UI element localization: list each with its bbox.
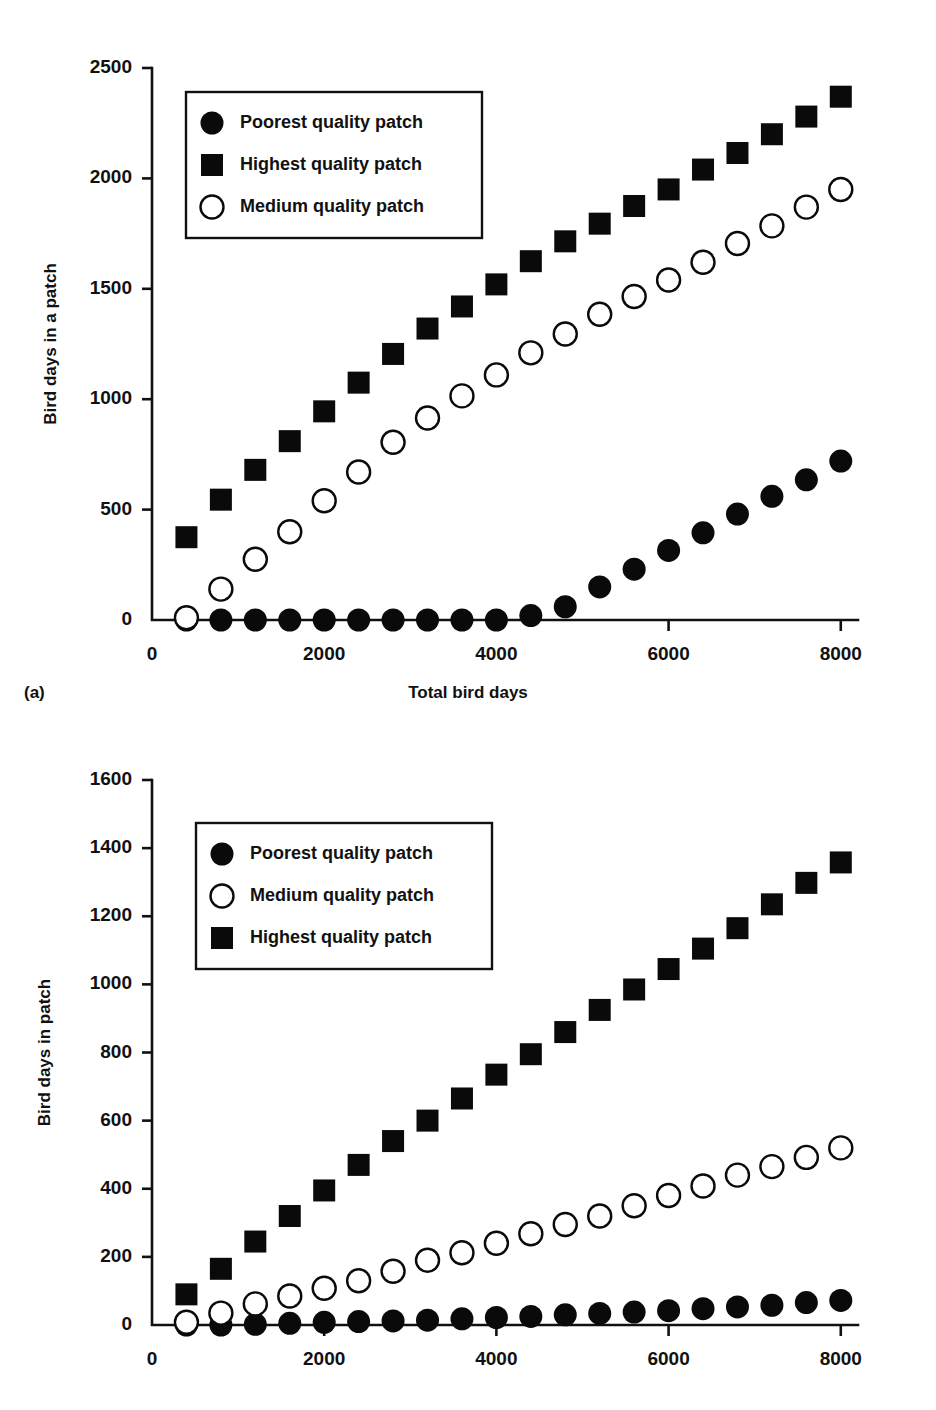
data-point xyxy=(589,999,611,1021)
data-point xyxy=(795,1291,818,1314)
legend-marker xyxy=(211,843,234,866)
data-point xyxy=(761,123,783,145)
x-tick-label: 2000 xyxy=(303,1348,345,1369)
x-tick-label: 6000 xyxy=(647,1348,689,1369)
x-tick-label: 8000 xyxy=(820,1348,862,1369)
x-tick-label: 2000 xyxy=(303,643,345,664)
data-point xyxy=(382,609,405,632)
data-point xyxy=(450,609,473,632)
data-point xyxy=(692,159,714,181)
data-point xyxy=(313,609,336,632)
data-point xyxy=(519,1222,542,1245)
x-tick-label: 8000 xyxy=(820,643,862,664)
legend-marker xyxy=(201,196,224,219)
data-point xyxy=(485,363,508,386)
data-point xyxy=(760,1294,783,1317)
figure-page: 0500100015002000250002000400060008000Bir… xyxy=(0,0,936,1410)
data-point xyxy=(657,539,680,562)
panel-label-a: (a) xyxy=(24,683,45,702)
data-point xyxy=(209,1302,232,1325)
data-point xyxy=(348,372,370,394)
y-axis-title-group: Bird days in patch xyxy=(35,979,54,1126)
y-tick-label: 200 xyxy=(100,1245,132,1266)
data-point xyxy=(451,1087,473,1109)
legend-label: Poorest quality patch xyxy=(240,112,423,132)
data-point xyxy=(382,343,404,365)
data-point xyxy=(657,268,680,291)
data-point xyxy=(692,1297,715,1320)
data-point xyxy=(692,1175,715,1198)
data-point xyxy=(657,1184,680,1207)
data-point xyxy=(416,406,439,429)
x-axis-title: Total bird days xyxy=(408,683,528,702)
data-point xyxy=(623,285,646,308)
data-point xyxy=(382,431,405,454)
x-tick-label: 0 xyxy=(147,1348,158,1369)
data-point xyxy=(279,1205,301,1227)
data-point xyxy=(416,1309,439,1332)
y-tick-label: 1000 xyxy=(90,387,132,408)
y-tick-label: 2000 xyxy=(90,166,132,187)
y-tick-label: 1500 xyxy=(90,277,132,298)
data-point xyxy=(450,1241,473,1264)
data-point xyxy=(244,459,266,481)
legend-label: Highest quality patch xyxy=(240,154,422,174)
data-point xyxy=(244,1292,267,1315)
data-point xyxy=(830,86,852,108)
data-point xyxy=(347,1310,370,1333)
data-point xyxy=(175,526,197,548)
data-point xyxy=(485,1064,507,1086)
data-point xyxy=(588,575,611,598)
data-point xyxy=(692,938,714,960)
y-tick-label: 600 xyxy=(100,1109,132,1130)
data-point xyxy=(795,1146,818,1169)
data-point xyxy=(417,318,439,340)
data-point xyxy=(278,1285,301,1308)
data-point xyxy=(657,1299,680,1322)
data-point xyxy=(175,1311,198,1334)
legend-label: Medium quality patch xyxy=(240,196,424,216)
legend-marker xyxy=(211,885,234,908)
data-point xyxy=(692,251,715,274)
data-point xyxy=(554,1303,577,1326)
y-tick-label: 0 xyxy=(121,608,132,629)
data-point xyxy=(382,1309,405,1332)
x-tick-label: 4000 xyxy=(475,643,517,664)
data-point xyxy=(279,430,301,452)
data-point xyxy=(278,609,301,632)
data-point xyxy=(313,489,336,512)
data-point xyxy=(588,303,611,326)
data-point xyxy=(726,142,748,164)
data-point xyxy=(554,230,576,252)
data-point xyxy=(175,1283,197,1305)
data-point xyxy=(692,521,715,544)
data-point xyxy=(726,1295,749,1318)
data-point xyxy=(658,178,680,200)
data-point xyxy=(347,1269,370,1292)
scatter-plot-a: 0500100015002000250002000400060008000Bir… xyxy=(0,0,936,705)
data-point xyxy=(658,958,680,980)
chart-panel-a: 0500100015002000250002000400060008000Bir… xyxy=(0,0,936,705)
y-tick-label: 500 xyxy=(100,498,132,519)
data-point xyxy=(795,872,817,894)
data-point xyxy=(450,384,473,407)
data-point xyxy=(623,195,645,217)
data-point xyxy=(554,1021,576,1043)
data-point xyxy=(829,450,852,473)
data-point xyxy=(519,341,542,364)
data-point xyxy=(244,548,267,571)
data-point xyxy=(485,273,507,295)
data-point xyxy=(278,1312,301,1335)
data-point xyxy=(209,578,232,601)
data-point xyxy=(623,1194,646,1217)
data-point xyxy=(760,1155,783,1178)
data-point xyxy=(313,1311,336,1334)
data-point xyxy=(726,1164,749,1187)
data-point xyxy=(209,609,232,632)
data-point xyxy=(244,609,267,632)
data-point xyxy=(519,1305,542,1328)
data-point xyxy=(417,1110,439,1132)
data-point xyxy=(348,1154,370,1176)
legend-marker xyxy=(211,927,233,949)
data-point xyxy=(313,1179,335,1201)
